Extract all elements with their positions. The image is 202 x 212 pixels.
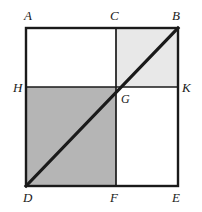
vertex-label-d: D	[23, 191, 32, 204]
vertex-label-e: E	[172, 191, 180, 204]
geometry-figure: A C B H K G D F E	[0, 0, 202, 212]
figure-canvas	[0, 0, 202, 212]
quadrant-top-left	[26, 28, 116, 87]
vertex-label-b: B	[172, 9, 180, 22]
vertex-label-h: H	[13, 81, 22, 94]
vertex-label-f: F	[110, 191, 118, 204]
vertex-label-c: C	[110, 9, 119, 22]
vertex-label-g: G	[121, 93, 130, 106]
vertex-label-a: A	[24, 9, 32, 22]
vertex-label-k: K	[182, 81, 191, 94]
